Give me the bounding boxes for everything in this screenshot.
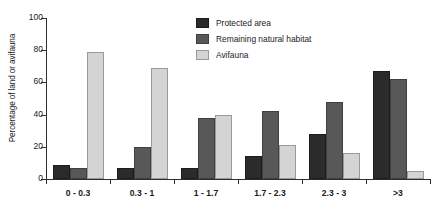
- bar: [407, 171, 424, 179]
- y-axis-line: [46, 18, 47, 180]
- bar: [87, 52, 104, 179]
- legend-item: Protected area: [196, 16, 366, 30]
- bar: [390, 79, 407, 179]
- x-tick-mark: [110, 179, 111, 184]
- bar: [53, 165, 70, 179]
- bar: [262, 111, 279, 179]
- x-tick-mark: [238, 179, 239, 184]
- legend-swatch: [196, 50, 209, 60]
- bar: [70, 168, 87, 179]
- bar: [343, 153, 360, 179]
- x-tick-mark: [302, 179, 303, 184]
- x-axis-category-label: 0 - 0.3: [46, 188, 110, 198]
- x-tick-mark: [430, 179, 431, 184]
- x-axis-category-label: 1 - 1.7: [174, 188, 238, 198]
- y-tick-label: 40: [34, 109, 43, 119]
- legend-swatch: [196, 34, 209, 44]
- bar: [309, 134, 326, 179]
- bar-group: [373, 18, 424, 179]
- y-tick-label: 100: [29, 12, 43, 22]
- x-tick-mark: [46, 179, 47, 184]
- legend-swatch: [196, 18, 209, 28]
- chart-legend: Protected areaRemaining natural habitatA…: [196, 16, 366, 64]
- bar: [373, 71, 390, 179]
- x-axis-category-label: 2.3 - 3: [302, 188, 366, 198]
- bar: [326, 102, 343, 179]
- bar-group: [117, 18, 168, 179]
- bar: [117, 168, 134, 179]
- bar-chart: Percentage of land or avifauna 020406080…: [0, 0, 436, 216]
- legend-item: Avifauna: [196, 48, 366, 62]
- bar: [198, 118, 215, 179]
- legend-label: Remaining natural habitat: [216, 34, 311, 44]
- y-tick-label: 60: [34, 76, 43, 86]
- bar: [245, 156, 262, 179]
- x-tick-mark: [366, 179, 367, 184]
- x-axis-category-label: 1.7 - 2.3: [238, 188, 302, 198]
- legend-item: Remaining natural habitat: [196, 32, 366, 46]
- y-axis-title: Percentage of land or avifauna: [6, 0, 20, 178]
- bar-group: [53, 18, 104, 179]
- y-tick-label: 20: [34, 141, 43, 151]
- bar: [181, 168, 198, 179]
- bar: [215, 115, 232, 179]
- x-axis-category-label: >3: [366, 188, 430, 198]
- bar: [134, 147, 151, 179]
- y-tick-label: 80: [34, 44, 43, 54]
- y-tick-label: 0: [38, 173, 43, 183]
- legend-label: Avifauna: [216, 50, 248, 60]
- x-tick-mark: [174, 179, 175, 184]
- legend-label: Protected area: [216, 18, 271, 28]
- bar: [151, 68, 168, 179]
- x-axis-category-label: 0.3 - 1: [110, 188, 174, 198]
- bar: [279, 145, 296, 179]
